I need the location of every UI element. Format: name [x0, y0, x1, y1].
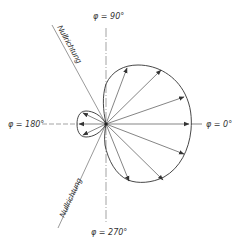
radiation-pattern-diagram: φ = 90° φ = 0° φ = 180° φ = 270° Nullric… [0, 0, 236, 243]
polar-plot: φ = 90° φ = 0° φ = 180° φ = 270° Nullric… [0, 0, 236, 243]
main-lobe-arrows [106, 68, 189, 181]
label-phi-180: φ = 180° [8, 120, 44, 129]
label-phi-0: φ = 0° [206, 120, 232, 129]
label-phi-90: φ = 90° [93, 12, 124, 21]
label-phi-270: φ = 270° [91, 228, 127, 237]
label-null-direction-lower: Nullrichtung [58, 176, 84, 219]
label-null-direction-upper: Nullrichtung [55, 24, 84, 66]
origin-point [104, 122, 107, 125]
